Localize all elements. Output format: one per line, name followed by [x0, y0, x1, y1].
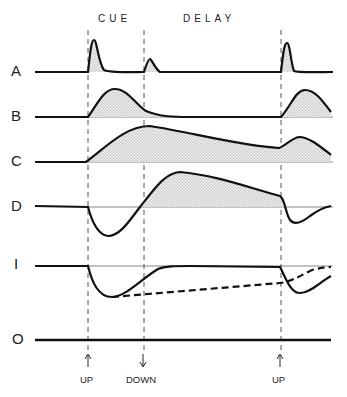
phase-label-delay: DELAY	[183, 13, 235, 24]
row-label-o: O	[12, 330, 24, 347]
trace-d	[35, 172, 333, 236]
event-label-up-2: UP	[272, 374, 285, 385]
trace-b	[35, 89, 333, 117]
row-label-i: I	[14, 255, 18, 272]
arrow-up-icon	[277, 354, 283, 367]
event-label-down: DOWN	[126, 374, 156, 385]
event-label-up-1: UP	[80, 374, 93, 385]
arrow-up-icon	[85, 354, 91, 367]
event-arrows	[85, 354, 283, 367]
trace-c	[35, 126, 333, 162]
trace-a	[35, 40, 333, 72]
timing-diagram	[0, 0, 347, 397]
row-label-c: C	[11, 152, 22, 169]
trace-i	[35, 266, 333, 297]
arrow-down-icon	[140, 354, 146, 367]
row-label-a: A	[11, 62, 21, 79]
row-label-b: B	[11, 107, 21, 124]
phase-label-cue: CUE	[98, 13, 131, 24]
row-label-d: D	[11, 197, 22, 214]
